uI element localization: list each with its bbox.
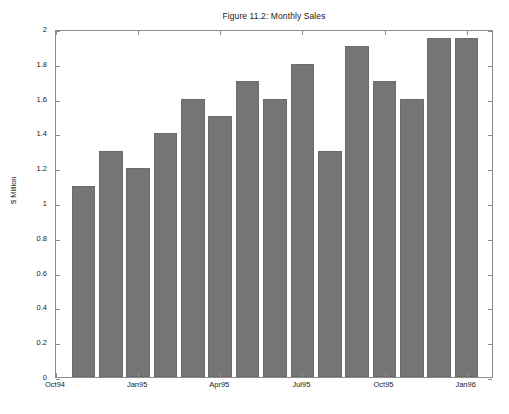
x-tick-mark — [138, 373, 139, 377]
y-tick-mark — [56, 170, 60, 171]
y-tick-mark — [56, 344, 60, 345]
x-tick-label: Oct94 — [45, 380, 65, 389]
y-tick-label: 0.6 — [37, 270, 47, 278]
figure-container: Figure 11.2: Monthly Sales 00.20.40.60.8… — [0, 0, 509, 414]
y-tick-mark — [56, 275, 60, 276]
x-tick-mark — [467, 31, 468, 35]
y-tick-mark — [488, 275, 492, 276]
y-tick-mark — [56, 205, 60, 206]
x-tick-mark — [56, 373, 57, 377]
y-tick-label: 1 — [43, 200, 47, 208]
x-tick-label: Jan95 — [127, 380, 147, 389]
bar — [318, 151, 342, 377]
plot-inner — [56, 31, 492, 377]
x-tick-mark — [467, 373, 468, 377]
y-tick-mark — [488, 31, 492, 32]
y-axis-title: $ Million — [9, 176, 18, 204]
y-tick-mark — [488, 170, 492, 171]
y-tick-mark — [488, 205, 492, 206]
bar — [373, 81, 397, 377]
y-tick-mark — [56, 309, 60, 310]
y-tick-label: 1.6 — [37, 96, 47, 104]
x-tick-mark — [385, 373, 386, 377]
y-tick-label: 0.2 — [37, 339, 47, 347]
x-tick-label: Jan96 — [455, 380, 475, 389]
y-tick-mark — [56, 66, 60, 67]
bar — [181, 99, 205, 377]
x-tick-mark — [302, 31, 303, 35]
x-tick-mark — [56, 31, 57, 35]
y-tick-mark — [56, 240, 60, 241]
plot-area — [55, 30, 493, 378]
y-tick-mark — [56, 135, 60, 136]
x-axis-tick-labels: Oct94Jan95Apr95Jul95Oct95Jan96 — [55, 380, 493, 396]
x-tick-label: Apr95 — [209, 380, 229, 389]
bar — [455, 38, 479, 377]
y-tick-label: 0.4 — [37, 304, 47, 312]
bar — [72, 186, 96, 377]
x-tick-label: Oct95 — [373, 380, 393, 389]
bar — [400, 99, 424, 377]
y-axis-tick-labels: 00.20.40.60.811.21.41.61.82 — [0, 30, 51, 378]
y-tick-mark — [488, 135, 492, 136]
bar — [208, 116, 232, 377]
chart-title: Figure 11.2: Monthly Sales — [55, 11, 493, 21]
y-tick-mark — [488, 309, 492, 310]
bar — [99, 151, 123, 377]
y-tick-mark — [488, 344, 492, 345]
bar — [236, 81, 260, 377]
y-tick-mark — [488, 240, 492, 241]
bar — [263, 99, 287, 377]
y-tick-label: 2 — [43, 26, 47, 34]
x-tick-label: Jul95 — [292, 380, 310, 389]
y-tick-mark — [56, 101, 60, 102]
x-tick-mark — [220, 373, 221, 377]
y-tick-label: 1.2 — [37, 165, 47, 173]
y-tick-mark — [488, 101, 492, 102]
y-tick-label: 1.4 — [37, 130, 47, 138]
bar — [291, 64, 315, 377]
y-tick-label: 0.8 — [37, 235, 47, 243]
bar — [126, 168, 150, 377]
y-tick-label: 1.8 — [37, 61, 47, 69]
bar — [427, 38, 451, 377]
bar — [345, 46, 369, 377]
x-tick-mark — [220, 31, 221, 35]
x-tick-mark — [302, 373, 303, 377]
bar — [154, 133, 178, 377]
y-tick-mark — [488, 66, 492, 67]
x-tick-mark — [385, 31, 386, 35]
x-tick-mark — [138, 31, 139, 35]
